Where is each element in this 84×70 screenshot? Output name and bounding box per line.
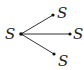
root-node — [19, 32, 23, 36]
child-node-upper — [51, 13, 54, 16]
tree-diagram: S S S S — [0, 0, 84, 70]
root-label: S — [5, 25, 15, 43]
edge-root-to-lower — [21, 34, 54, 54]
child-node-lower — [52, 52, 55, 55]
edge-root-to-upper — [21, 15, 53, 34]
child-label-lower: S — [58, 52, 68, 70]
child-node-right — [68, 32, 71, 35]
child-label-right: S — [73, 25, 83, 43]
child-label-upper: S — [57, 4, 67, 22]
